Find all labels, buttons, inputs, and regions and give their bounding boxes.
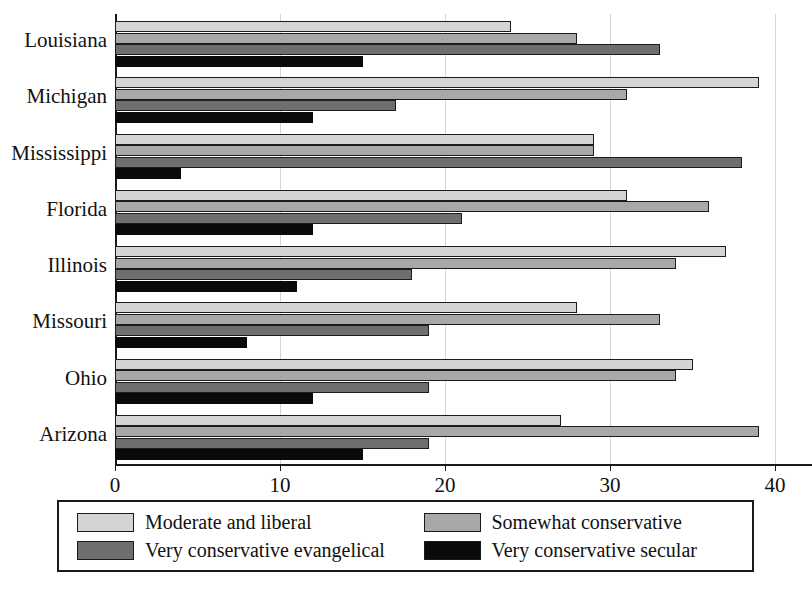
x-tick bbox=[775, 464, 776, 471]
bar bbox=[115, 337, 247, 348]
category-axis-labels: LouisianaMichiganMississippiFloridaIllin… bbox=[0, 14, 107, 464]
bar-group bbox=[115, 359, 775, 405]
bar bbox=[115, 382, 429, 393]
category-label: Florida bbox=[0, 198, 107, 220]
x-tick bbox=[280, 464, 281, 471]
legend-item: Somewhat conservative bbox=[406, 511, 753, 533]
bar bbox=[115, 190, 627, 201]
bar bbox=[115, 89, 627, 100]
bar bbox=[115, 168, 181, 179]
x-tick bbox=[445, 464, 446, 471]
bar bbox=[115, 370, 676, 381]
bar bbox=[115, 21, 511, 32]
bar bbox=[115, 359, 693, 370]
bar bbox=[115, 224, 313, 235]
bar bbox=[115, 213, 462, 224]
bar bbox=[115, 258, 676, 269]
bar bbox=[115, 44, 660, 55]
x-tick bbox=[115, 464, 116, 471]
x-tick-label: 0 bbox=[85, 473, 145, 497]
legend-item: Very conservative evangelical bbox=[59, 539, 406, 561]
legend-grid: Moderate and liberalSomewhat conservativ… bbox=[59, 502, 752, 570]
bar bbox=[115, 77, 759, 88]
bar-group bbox=[115, 134, 775, 180]
category-label: Illinois bbox=[0, 254, 107, 276]
bar bbox=[115, 269, 412, 280]
legend-label: Moderate and liberal bbox=[145, 511, 312, 533]
bar-group bbox=[115, 302, 775, 348]
gridline bbox=[775, 14, 776, 464]
plot-area bbox=[115, 14, 775, 464]
legend-swatch bbox=[77, 541, 134, 560]
bar bbox=[115, 393, 313, 404]
bar bbox=[115, 145, 594, 156]
category-label: Missouri bbox=[0, 310, 107, 332]
legend-label: Somewhat conservative bbox=[492, 511, 683, 533]
x-tick-label: 10 bbox=[250, 473, 310, 497]
bar bbox=[115, 281, 297, 292]
bar bbox=[115, 325, 429, 336]
bar bbox=[115, 246, 726, 257]
legend-label: Very conservative secular bbox=[492, 539, 697, 561]
x-axis-line bbox=[115, 464, 812, 466]
category-label: Ohio bbox=[0, 367, 107, 389]
bar bbox=[115, 314, 660, 325]
x-tick bbox=[610, 464, 611, 471]
bar bbox=[115, 134, 594, 145]
x-tick-label: 40 bbox=[745, 473, 805, 497]
bar bbox=[115, 56, 363, 67]
bar bbox=[115, 415, 561, 426]
bar bbox=[115, 112, 313, 123]
bar bbox=[115, 426, 759, 437]
category-label: Mississippi bbox=[0, 142, 107, 164]
bar bbox=[115, 302, 577, 313]
bar bbox=[115, 100, 396, 111]
legend-swatch bbox=[77, 513, 134, 532]
legend-label: Very conservative evangelical bbox=[145, 539, 385, 561]
x-tick-label: 20 bbox=[415, 473, 475, 497]
legend-swatch bbox=[424, 541, 481, 560]
x-tick-label: 30 bbox=[580, 473, 640, 497]
bar bbox=[115, 201, 709, 212]
category-label: Louisiana bbox=[0, 29, 107, 51]
bar bbox=[115, 157, 742, 168]
bar bbox=[115, 438, 429, 449]
bar-group bbox=[115, 190, 775, 236]
bar-group bbox=[115, 415, 775, 461]
legend-item: Very conservative secular bbox=[406, 539, 753, 561]
category-label: Arizona bbox=[0, 423, 107, 445]
bar-group bbox=[115, 246, 775, 292]
bar bbox=[115, 449, 363, 460]
bar-group bbox=[115, 21, 775, 67]
bar-chart: LouisianaMichiganMississippiFloridaIllin… bbox=[0, 0, 812, 595]
bar-group bbox=[115, 77, 775, 123]
legend-item: Moderate and liberal bbox=[59, 511, 406, 533]
legend-swatch bbox=[424, 513, 481, 532]
legend: Moderate and liberalSomewhat conservativ… bbox=[57, 500, 754, 572]
bar bbox=[115, 33, 577, 44]
category-label: Michigan bbox=[0, 85, 107, 107]
